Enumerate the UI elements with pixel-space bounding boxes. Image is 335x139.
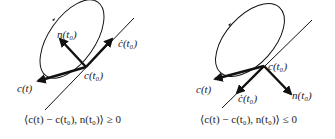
label-curve-point: c(t) [17,83,32,94]
normal-vector [60,39,86,67]
left-panel [27,0,134,110]
label-base-point: c(t₀) [268,61,287,72]
closed-curve [203,0,298,89]
label-normal: n(t₀) [292,90,312,101]
formula-right: ⟨c(t) − c(t₀), n(t₀)⟩ ≤ 0 [200,114,297,125]
label-velocity: ċ(t₀) [238,93,257,104]
label-base-point: c(t₀) [84,70,103,81]
orientation-arrow-icon [52,18,55,21]
label-normal: n(t₀) [57,29,77,40]
label-velocity: ċ(t₀) [118,38,137,49]
formula-left: ⟨c(t) − c(t₀), n(t₀)⟩ ≥ 0 [24,114,121,125]
closed-curve [27,0,116,89]
label-curve-point: c(t) [196,84,211,95]
difference-vector [38,67,86,81]
